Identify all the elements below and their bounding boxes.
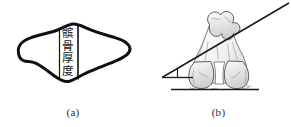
patella-outline-path xyxy=(18,24,130,82)
panel-b: (b) xyxy=(146,0,291,127)
panel-a: 髌骨厚度 (a) xyxy=(0,0,146,127)
lateral-condyle xyxy=(224,61,248,89)
figure-root: 髌骨厚度 (a) xyxy=(0,0,291,127)
patella-thickness-label: 髌骨厚度 xyxy=(60,27,72,77)
medial-condyle xyxy=(189,62,214,89)
caption-panel-a: (a) xyxy=(0,107,146,118)
caption-panel-b: (b) xyxy=(146,107,291,118)
femur-bone-sketch xyxy=(189,11,251,89)
intercondylar-notch xyxy=(214,62,225,84)
